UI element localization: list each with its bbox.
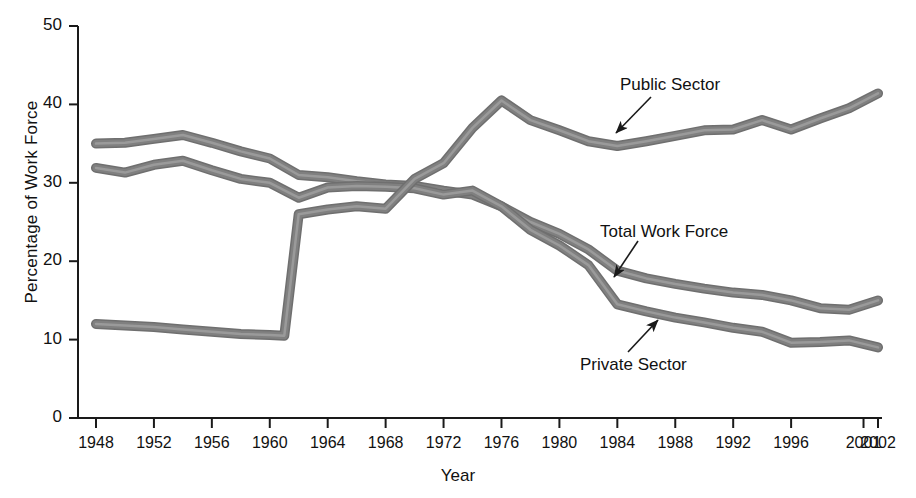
chart-figure: Percentage of Work Force Year 0102030405…	[0, 0, 916, 498]
series-line-outline	[96, 161, 878, 348]
annotation-arrow	[628, 320, 658, 352]
series-line	[96, 135, 878, 310]
annotation-arrow	[616, 97, 651, 133]
series-line-highlight	[96, 135, 878, 310]
axes	[69, 26, 882, 428]
plot-area	[0, 0, 916, 498]
series-line	[96, 161, 878, 348]
data-series	[96, 93, 878, 347]
series-line-outline	[96, 135, 878, 310]
series-line-highlight	[96, 161, 878, 348]
